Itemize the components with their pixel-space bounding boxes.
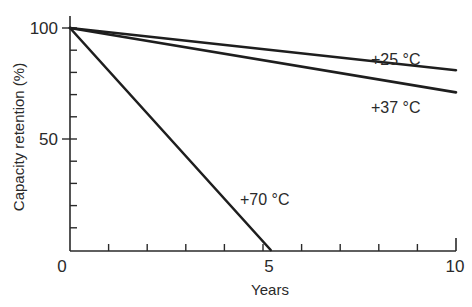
x-tick-label-0: 0 [57,257,66,276]
x-tick-label-10: 10 [446,257,465,276]
y-tick-label-100: 100 [30,19,58,38]
y-tick-label-50: 50 [39,130,58,149]
series-label-37c: +37 °C [371,99,421,116]
y-axis-title: Capacity retention (%) [10,63,27,211]
series-label-70c: +70 °C [240,191,290,208]
x-tick-label-5: 5 [264,257,273,276]
x-ticks [109,244,418,251]
series-label-25c: +25 °C [371,51,421,68]
capacity-retention-chart: 100 50 0 5 10 Years Capacity retention (… [0,0,472,307]
x-axis-title: Years [251,281,289,298]
series-line-70c [70,28,271,250]
